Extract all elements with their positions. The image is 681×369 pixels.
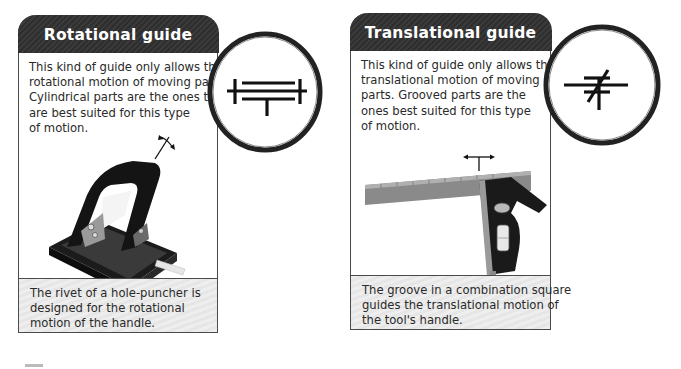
caption-line: The rivet of a hole-puncher is [30, 286, 217, 301]
combination-square-image [361, 153, 551, 288]
rotational-guide-card: Rotational guide This kind of guide only… [18, 15, 218, 333]
translational-guide-card: Translational guide This kind of guide o… [350, 13, 551, 330]
description-line: ones best suited for this type [361, 104, 540, 119]
caption-line: The groove in a combination square [362, 283, 550, 298]
description-line: This kind of guide only allows the [361, 58, 540, 73]
caption-line: motion of the handle. [30, 316, 217, 331]
description-line: of motion. [29, 121, 207, 136]
description-line: are best suited for this type [29, 106, 207, 121]
caption-line: the tool's handle. [362, 313, 550, 328]
caption-line: designed for the rotational [30, 301, 217, 316]
translational-guide-symbol-icon [540, 22, 665, 152]
page-mark [25, 364, 43, 367]
description-line: Cylindrical parts are the ones that [29, 90, 207, 105]
description-line: of motion. [361, 119, 540, 134]
description-line: parts. Grooved parts are the [361, 88, 540, 103]
description-line: translational motion of moving [361, 73, 540, 88]
card-title: Translational guide [350, 13, 552, 51]
description-line: This kind of guide only allows the [29, 60, 207, 75]
card-title: Rotational guide [18, 15, 219, 53]
description-line: rotational motion of moving parts. [29, 75, 207, 90]
card-caption: The groove in a combination square guide… [351, 275, 550, 329]
hole-puncher-image [37, 135, 207, 300]
caption-line: guides the translational motion of [362, 298, 550, 313]
rotational-guide-symbol-icon [205, 28, 325, 158]
card-description: This kind of guide only allows the rotat… [29, 60, 207, 136]
card-caption: The rivet of a hole-puncher is designed … [19, 278, 217, 332]
card-description: This kind of guide only allows the trans… [361, 58, 540, 134]
